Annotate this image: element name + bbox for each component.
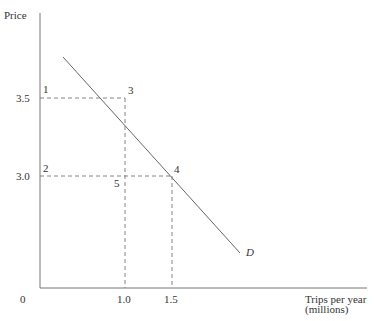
point-label-3: 3 (128, 84, 134, 96)
x-tick-1.0: 1.0 (117, 293, 131, 305)
point-label-2: 2 (43, 162, 49, 174)
y-axis-label: Price (4, 9, 27, 21)
point-label-5: 5 (114, 177, 120, 189)
origin-label: 0 (20, 293, 26, 305)
demand-curve-label: D (246, 246, 254, 258)
point-label-1: 1 (43, 83, 49, 95)
x-axis-label-line2: (millions) (305, 303, 348, 315)
point-label-4: 4 (174, 163, 180, 175)
demand-curve (63, 57, 240, 253)
x-tick-1.5: 1.5 (164, 293, 178, 305)
y-tick-3.5: 3.5 (16, 92, 30, 104)
y-tick-3.0: 3.0 (16, 170, 30, 182)
chart-canvas (0, 0, 374, 321)
